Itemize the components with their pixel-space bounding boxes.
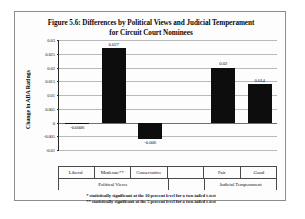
group-spacer: [168, 178, 205, 190]
footnote-two-star: ** statistically significant at the 5 pe…: [25, 199, 277, 205]
chart-title-line-1: Figure 5.6: Differences by Political Vie…: [25, 19, 277, 29]
category-spacer: [168, 166, 205, 178]
y-axis-tick: [57, 109, 60, 110]
category-axis-table: LiberalModerate**ConservativeFairGood Po…: [58, 166, 277, 191]
chart-title: Figure 5.6: Differences by Political Vie…: [25, 19, 277, 38]
gridline: [59, 123, 277, 124]
gridline: [59, 54, 277, 55]
category-label-fair: Fair: [204, 166, 241, 178]
figure-frame: Figure 5.6: Differences by Political Vie…: [14, 11, 286, 201]
bar-value-label: 0.027: [94, 42, 134, 47]
y-axis-tick: [57, 150, 60, 151]
y-axis-tick-label: 0.02: [47, 65, 55, 70]
bar: [248, 84, 272, 123]
bar: [102, 48, 126, 122]
y-axis-tick-label: 0: [53, 120, 55, 125]
group-label-judicial-temperament: Judicial Temperament: [204, 178, 277, 190]
y-axis-tick: [57, 123, 60, 124]
y-axis-tick: [57, 68, 60, 69]
group-row-separator: [168, 178, 169, 190]
gridline: [59, 136, 277, 137]
figure-page: Figure 5.6: Differences by Political Vie…: [0, 0, 305, 219]
category-label-row: LiberalModerate**ConservativeFairGood: [58, 166, 277, 178]
y-axis-tick-label: -0.005: [44, 134, 55, 139]
y-axis-tick: [57, 40, 60, 41]
chart-canvas: -0.00060.027-0.0060.020.014: [58, 40, 277, 150]
bar-value-label: -0.006: [130, 140, 170, 145]
y-axis-tick: [57, 136, 60, 137]
y-axis-tick-label: 0.03: [47, 38, 55, 43]
group-row-separator: [204, 178, 205, 190]
bar-value-label: 0.014: [240, 78, 280, 83]
gridline: [59, 95, 277, 96]
bar: [211, 68, 235, 123]
chart-title-line-2: for Circuit Court Nominees: [25, 29, 277, 39]
y-axis-tick-label: -0.01: [46, 148, 55, 153]
category-label-conservative: Conservative: [131, 166, 168, 178]
category-label-moderate: Moderate**: [95, 166, 132, 178]
gridline: [59, 109, 277, 110]
y-axis-tick-label: 0.01: [47, 93, 55, 98]
y-axis-title: Change in ABA Ratings: [23, 50, 32, 150]
plot-area: Change in ABA Ratings 0.030.0250.020.015…: [24, 40, 278, 166]
gridline: [59, 68, 277, 69]
cat-table-edge: [58, 166, 59, 190]
category-label-good: Good: [241, 166, 278, 178]
bar-value-label: 0.02: [203, 61, 243, 66]
category-label-liberal: Liberal: [58, 166, 95, 178]
y-axis-tick-label: 0.015: [45, 79, 55, 84]
y-axis-tick: [57, 95, 60, 96]
footnotes: * statistically significant at the 10 pe…: [25, 193, 277, 205]
y-axis-tick: [57, 54, 60, 55]
cat-table-edge: [276, 166, 277, 190]
group-label-political-views: Political Views: [58, 178, 168, 190]
bar: [138, 123, 162, 140]
y-axis-tick: [57, 81, 60, 82]
y-axis-tick-label: 0.025: [45, 51, 55, 56]
gridline: [59, 40, 277, 41]
y-axis-tick-label: 0.005: [45, 106, 55, 111]
bar-value-label: -0.0006: [57, 125, 97, 130]
gridline: [59, 150, 277, 151]
y-axis-tick-labels: 0.030.0250.020.0150.010.0050-0.005-0.01: [33, 40, 57, 150]
